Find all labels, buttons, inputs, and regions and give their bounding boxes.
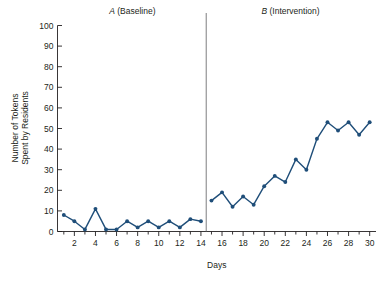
data-point	[199, 219, 203, 223]
phase-label-b: B (Intervention)	[262, 6, 320, 16]
data-point	[94, 207, 98, 211]
x-tick-label: 28	[344, 238, 354, 248]
x-tick-label: 14	[196, 238, 206, 248]
data-point	[326, 120, 330, 124]
x-tick-label: 4	[93, 238, 98, 248]
y-axis-title-line-2: Spent by Residents	[20, 91, 30, 165]
chart-container: A (Baseline)B (Intervention) 01020304050…	[0, 0, 390, 282]
x-tick-label: 16	[217, 238, 227, 248]
y-tick-label: 60	[44, 103, 54, 113]
y-axis-tick-labels: 0102030405060708090100	[39, 21, 53, 237]
x-axis: 24681012141618202224262830	[58, 232, 377, 248]
x-axis-title: Days	[207, 260, 226, 270]
x-tick-label: 24	[302, 238, 312, 248]
x-tick-label: 18	[238, 238, 248, 248]
y-tick-label: 90	[44, 41, 54, 51]
y-tick-label: 100	[39, 21, 53, 31]
y-tick-label: 20	[44, 185, 54, 195]
data-point	[273, 174, 277, 178]
data-point	[62, 213, 66, 217]
phase-label-a: A (Baseline)	[108, 6, 155, 16]
data-point	[157, 225, 161, 229]
data-point	[72, 219, 76, 223]
x-tick-label: 22	[281, 238, 291, 248]
x-tick-label: 30	[365, 238, 375, 248]
x-tick-label: 6	[114, 238, 119, 248]
data-point	[262, 184, 266, 188]
y-axis-title: Number of Tokens Spent by Residents	[10, 91, 30, 165]
phase-name: (Intervention)	[267, 6, 320, 16]
data-point	[83, 227, 87, 231]
y-axis-title-line-1: Number of Tokens	[10, 94, 20, 163]
data-point	[241, 195, 245, 199]
y-tick-label: 80	[44, 62, 54, 72]
y-tick-label: 50	[44, 124, 54, 134]
data-point	[347, 120, 351, 124]
data-point	[210, 199, 214, 203]
data-point	[136, 225, 140, 229]
x-tick-label: 10	[154, 238, 164, 248]
data-point	[252, 203, 256, 207]
data-series-group	[62, 120, 372, 231]
phase-label-group: A (Baseline)B (Intervention)	[108, 6, 320, 16]
series-line-phase-b	[211, 122, 369, 206]
phase-name: (Baseline)	[115, 6, 156, 16]
data-point	[178, 225, 182, 229]
data-point	[231, 205, 235, 209]
data-point	[304, 168, 308, 172]
y-tick-label: 0	[49, 227, 54, 237]
y-axis: 0102030405060708090100	[39, 21, 62, 237]
data-point	[283, 180, 287, 184]
data-point	[220, 190, 224, 194]
y-tick-label: 30	[44, 165, 54, 175]
y-tick-label: 70	[44, 82, 54, 92]
data-point	[357, 133, 361, 137]
x-tick-label: 8	[135, 238, 140, 248]
y-tick-label: 10	[44, 206, 54, 216]
data-point-markers	[62, 120, 372, 231]
data-point	[315, 137, 319, 141]
x-tick-label: 12	[175, 238, 185, 248]
data-point	[336, 129, 340, 133]
x-axis-tick-labels: 24681012141618202224262830	[72, 238, 375, 248]
x-tick-label: 2	[72, 238, 77, 248]
data-point	[125, 219, 129, 223]
data-point	[188, 217, 192, 221]
x-tick-label: 20	[259, 238, 269, 248]
data-point	[294, 157, 298, 161]
data-point	[368, 120, 372, 124]
x-axis-ticks	[64, 232, 370, 237]
x-tick-label: 26	[323, 238, 333, 248]
y-axis-ticks	[58, 26, 63, 232]
data-point	[115, 227, 119, 231]
data-point	[167, 219, 171, 223]
data-point	[104, 227, 108, 231]
line-chart-svg: A (Baseline)B (Intervention) 01020304050…	[0, 0, 390, 282]
data-point	[146, 219, 150, 223]
y-tick-label: 40	[44, 144, 54, 154]
